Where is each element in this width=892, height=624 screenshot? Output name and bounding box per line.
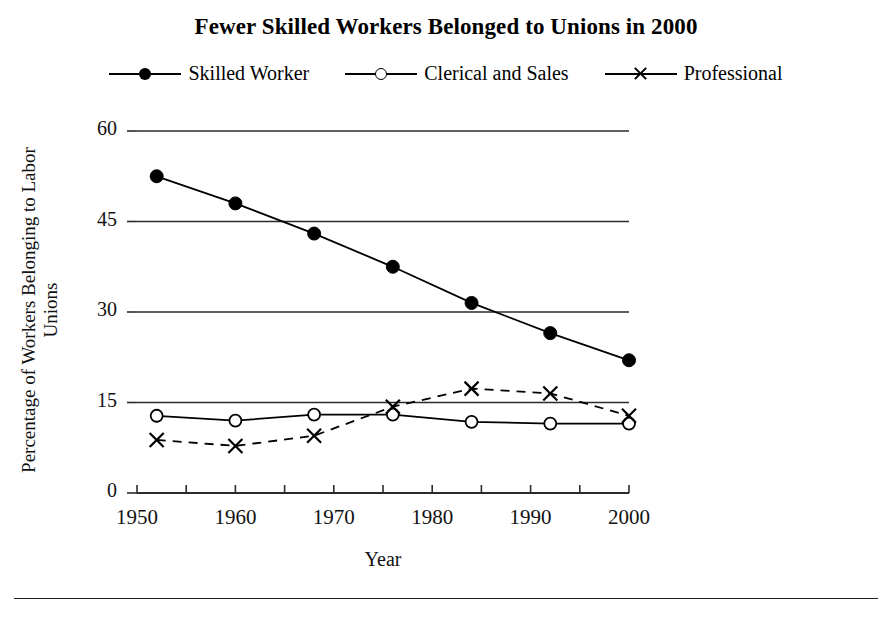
x-tick-label: 1980 [392, 505, 472, 530]
y-tick-label: 60 [69, 117, 117, 140]
data-point [544, 418, 556, 430]
series-skilled-worker [150, 170, 635, 367]
x-axis-label: Year [137, 548, 629, 571]
data-point [229, 197, 242, 210]
data-point [466, 416, 478, 428]
x-tick-label: 1990 [491, 505, 571, 530]
y-tick-label: 0 [69, 479, 117, 502]
x-tick-label: 1970 [294, 505, 374, 530]
data-point [386, 260, 399, 273]
x-tick-label: 1960 [195, 505, 275, 530]
data-point [229, 415, 241, 427]
plot-area: Percentage of Workers Belonging to Labor… [0, 0, 892, 624]
footer-divider [14, 598, 878, 599]
x-tick-label: 1950 [97, 505, 177, 530]
data-point [623, 354, 636, 367]
y-tick-label: 30 [69, 298, 117, 321]
chart-canvas [0, 0, 892, 624]
series-clerical-and-sales [151, 409, 635, 430]
y-tick-label: 45 [69, 208, 117, 231]
data-point [308, 409, 320, 421]
data-point [150, 170, 163, 183]
chart-figure: Fewer Skilled Workers Belonged to Unions… [0, 0, 892, 624]
data-point [308, 227, 321, 240]
data-point [465, 296, 478, 309]
data-point [151, 410, 163, 422]
y-tick-label: 15 [69, 389, 117, 412]
x-tick-label: 2000 [589, 505, 669, 530]
data-point [544, 327, 557, 340]
